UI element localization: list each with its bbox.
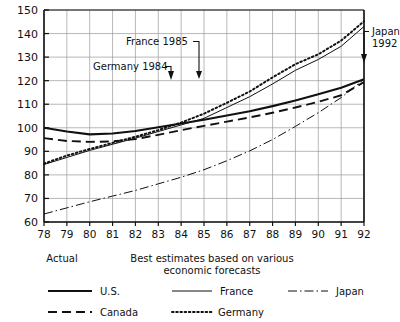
y-tick-label: 100 [17,122,38,135]
x-tick-label: 84 [174,228,188,240]
chart-container: 15014013012011010090807060 7879808182838… [0,0,400,322]
legend-item-germany[interactable]: Germany [172,307,264,318]
annotation-france-1985: France 1985 [126,36,202,79]
legend-item-japan[interactable]: Japan [288,286,364,297]
y-tick-label: 130 [17,51,38,64]
legend-label-canada: Canada [100,307,138,318]
legend-label-japan: Japan [335,286,364,297]
legend-item-france[interactable]: France [172,286,253,297]
x-tick-label: 88 [266,228,279,240]
y-tick-label: 60 [24,216,38,229]
y-tick-label: 150 [17,4,38,17]
legend-label-germany: Germany [218,307,264,318]
x-tick-label: 83 [152,228,165,240]
x-tick-label: 85 [197,228,210,240]
y-tick-label: 140 [17,28,38,41]
x-tick-label: 91 [334,228,347,240]
x-tick-label: 86 [220,228,234,240]
y-tick-label: 80 [24,169,38,182]
legend-item-canada[interactable]: Canada [48,307,138,318]
x-tick-label: 82 [129,228,142,240]
plot-gridlines [44,10,364,222]
caption-actual: Actual [46,253,77,264]
annotation-germany-1984: Germany 1984 [93,61,174,80]
x-tick-label: 90 [312,228,325,240]
x-tick-label: 80 [83,228,96,240]
y-tick-label: 110 [17,98,38,111]
x-tick-label: 87 [243,228,256,240]
annotation-japan-1992: Japan 1992 [361,26,400,63]
economic-index-line-chart: 15014013012011010090807060 7879808182838… [0,0,400,322]
y-tick-label: 120 [17,75,38,88]
x-axis-tick-labels: 787980818283848586878889909192 [37,228,370,240]
x-tick-label: 92 [357,228,370,240]
legend-label-us: U.S. [100,286,120,297]
x-tick-label: 81 [106,228,119,240]
y-axis-tick-labels: 15014013012011010090807060 [17,4,38,229]
legend-label-france: France [220,286,253,297]
legend-item-us[interactable]: U.S. [48,286,120,297]
x-tick-label: 89 [289,228,302,240]
annotation-france-1985-label: France 1985 [126,36,188,47]
x-tick-label: 78 [37,228,50,240]
annotation-japan-1992-label-line2: 1992 [372,38,397,49]
y-tick-label: 90 [24,145,38,158]
caption-forecast-line1: Best estimates based on various [130,253,293,264]
y-tick-label: 70 [24,192,38,205]
annotation-japan-1992-label-line1: Japan [371,26,400,37]
legend: U.S. Canada France Germany Japan [48,286,364,318]
x-tick-label: 79 [60,228,73,240]
annotation-germany-1984-label: Germany 1984 [93,61,168,72]
caption-forecast-line2: economic forecasts [163,265,260,276]
